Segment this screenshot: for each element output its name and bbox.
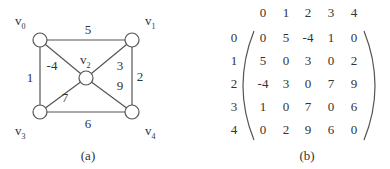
row-header: 4	[231, 122, 238, 137]
edge-v1-v2	[86, 40, 132, 78]
matrix-cell: 0	[351, 30, 358, 45]
graph-caption: (a)	[81, 148, 95, 163]
matrix-cell: -4	[303, 30, 314, 45]
matrix-cell: 3	[283, 76, 290, 91]
matrix-cell: 2	[283, 122, 290, 137]
row-header: 3	[231, 99, 238, 114]
matrix-cell: 0	[283, 53, 290, 68]
matrix-cell: 0	[260, 122, 267, 137]
matrix-cell: 1	[328, 30, 335, 45]
matrix-cell: -4	[258, 76, 269, 91]
matrix-cell: 5	[283, 30, 290, 45]
vertex-v0	[33, 33, 47, 47]
vertex-label: v3	[15, 123, 26, 141]
row-headers: 01234	[231, 30, 238, 137]
row-header: 0	[231, 30, 238, 45]
vertex-v2	[79, 71, 93, 85]
vertex-label: v0	[15, 13, 26, 31]
edge-weight: 5	[85, 22, 92, 37]
column-header: 2	[305, 5, 312, 20]
matrix-cell: 6	[351, 99, 358, 114]
graph: 51-432796 v0v1v2v3v4 (a)	[15, 13, 156, 163]
vertex-label: v2	[80, 52, 91, 70]
row-header: 1	[231, 53, 238, 68]
edge-v2-v4	[86, 78, 132, 112]
figure: 51-432796 v0v1v2v3v4 (a) 01234 01234 05-…	[0, 0, 390, 169]
column-header: 3	[328, 5, 335, 20]
vertex-label: v4	[145, 123, 156, 141]
matrix-cells: 05-41050302-430791070602960	[258, 30, 358, 137]
matrix-cell: 0	[283, 99, 290, 114]
adjacency-matrix: 01234 01234 05-41050302-430791070602960 …	[231, 5, 375, 163]
matrix-cell: 9	[351, 76, 358, 91]
column-header: 4	[351, 5, 358, 20]
edge-weight: 2	[137, 69, 144, 84]
matrix-cell: 0	[328, 53, 335, 68]
matrix-cell: 3	[305, 53, 312, 68]
edge-weight: -4	[47, 58, 58, 73]
vertex-v3	[33, 105, 47, 119]
matrix-cell: 1	[260, 99, 267, 114]
matrix-cell: 6	[328, 122, 335, 137]
edge-weight: 3	[117, 58, 124, 73]
vertex-v4	[125, 105, 139, 119]
edge-weight: 9	[117, 78, 124, 93]
left-parenthesis	[243, 31, 254, 140]
matrix-cell: 0	[260, 30, 267, 45]
matrix-cell: 5	[260, 53, 267, 68]
matrix-cell: 0	[305, 76, 312, 91]
edge-weight: 1	[27, 70, 34, 85]
vertex-v1	[125, 33, 139, 47]
matrix-cell: 7	[305, 99, 312, 114]
matrix-cell: 0	[351, 122, 358, 137]
column-header: 0	[260, 5, 267, 20]
matrix-cell: 0	[328, 99, 335, 114]
column-header: 1	[283, 5, 290, 20]
vertex-label: v1	[145, 13, 156, 31]
matrix-cell: 2	[351, 53, 358, 68]
row-header: 2	[231, 76, 238, 91]
edge-weight: 6	[85, 116, 92, 131]
column-headers: 01234	[260, 5, 358, 20]
matrix-cell: 7	[328, 76, 335, 91]
edge-weight: 7	[62, 90, 69, 105]
right-parenthesis	[364, 31, 375, 140]
matrix-cell: 9	[305, 122, 312, 137]
matrix-caption: (b)	[299, 148, 314, 163]
